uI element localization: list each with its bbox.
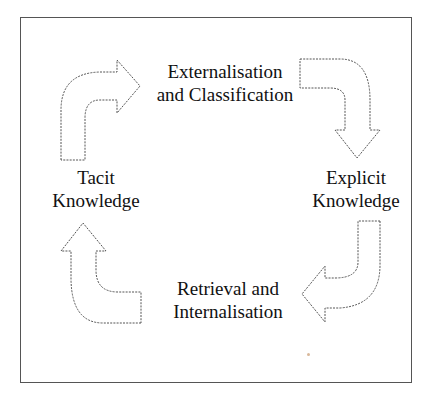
- curved-arrow-left-icon: [302, 221, 380, 322]
- node-tacit-knowledge: Tacit Knowledge: [40, 166, 152, 212]
- node-retrieval-line2: Internalisation: [150, 300, 306, 323]
- node-explicit-line2: Knowledge: [296, 189, 416, 212]
- node-retrieval: Retrieval and Internalisation: [150, 277, 306, 323]
- node-explicit-knowledge: Explicit Knowledge: [296, 166, 416, 212]
- node-retrieval-line1: Retrieval and: [150, 277, 306, 300]
- node-explicit-line1: Explicit: [296, 166, 416, 189]
- scan-speck: [307, 353, 310, 356]
- node-externalisation-line1: Externalisation: [144, 60, 306, 83]
- curved-arrow-right-icon: [61, 60, 140, 160]
- curved-arrow-up-icon: [61, 223, 141, 323]
- node-externalisation: Externalisation and Classification: [144, 60, 306, 106]
- node-externalisation-line2: and Classification: [144, 83, 306, 106]
- node-tacit-line1: Tacit: [40, 166, 152, 189]
- curved-arrow-down-icon: [300, 59, 380, 158]
- node-tacit-line2: Knowledge: [40, 189, 152, 212]
